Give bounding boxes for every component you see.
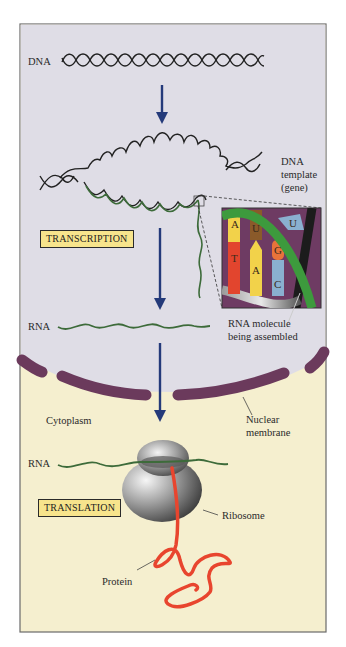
svg-text:T: T bbox=[231, 252, 238, 264]
svg-text:G: G bbox=[274, 244, 282, 256]
dna-template-label-1: DNA bbox=[281, 156, 304, 168]
dna-template-label-2: template bbox=[281, 169, 317, 181]
rna-label-cytoplasm: RNA bbox=[28, 458, 50, 470]
protein-label: Protein bbox=[102, 576, 132, 588]
translation-label: TRANSLATION bbox=[38, 499, 121, 517]
rna-label-nucleus: RNA bbox=[28, 321, 50, 333]
svg-text:C: C bbox=[274, 278, 281, 290]
svg-text:A: A bbox=[252, 264, 260, 276]
nuclear-membrane-label-2: membrane bbox=[246, 427, 290, 439]
cytoplasm-label: Cytoplasm bbox=[46, 415, 92, 427]
transcription-translation-diagram: A T U A G C U DNA bbox=[0, 0, 346, 647]
dna-template-label-3: (gene) bbox=[281, 182, 308, 194]
svg-text:U: U bbox=[252, 222, 260, 234]
nuclear-membrane-label-1: Nuclear bbox=[246, 414, 279, 426]
inset-rna-assembly: A T U A G C U bbox=[222, 208, 321, 323]
rna-molecule-label-1: RNA molecule bbox=[228, 318, 291, 330]
dna-label: DNA bbox=[28, 56, 51, 68]
ribosome-label: Ribosome bbox=[222, 510, 265, 522]
rna-molecule-label-2: being assembled bbox=[228, 331, 298, 343]
transcription-label: TRANSCRIPTION bbox=[40, 230, 134, 248]
svg-text:U: U bbox=[289, 217, 297, 229]
svg-text:A: A bbox=[231, 218, 239, 230]
diagram-artwork: A T U A G C U bbox=[0, 0, 346, 647]
